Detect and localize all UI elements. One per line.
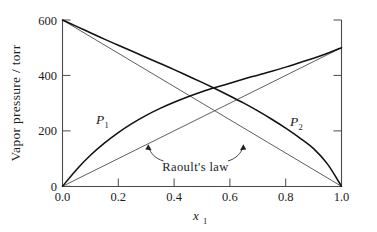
y-ticklabel-400: 400 <box>38 69 57 83</box>
chart-svg: 600 400 200 0 0.0 0.2 0.4 0.6 0.8 1.0 Va… <box>0 0 377 232</box>
y-ticklabel-200: 200 <box>38 124 57 138</box>
y-axis-ticks-right <box>334 20 342 131</box>
series-label-p1-base: P <box>95 112 104 127</box>
raoult-law-annotation: Raoult's law <box>145 144 246 173</box>
series-label-p1: P 1 <box>95 112 109 130</box>
y-ticklabel-600: 600 <box>38 14 57 28</box>
x-ticklabel-0.8: 0.8 <box>278 190 294 204</box>
series-label-p2: P 2 <box>289 114 303 132</box>
y-axis-label: Vapor pressure / torr <box>8 44 23 161</box>
x-axis-label: x 1 <box>192 208 207 226</box>
x-tick-labels: 0.0 0.2 0.4 0.6 0.8 1.0 <box>55 190 350 204</box>
series-label-p2-subscript: 2 <box>299 122 303 132</box>
series-label-p1-subscript: 1 <box>105 120 109 130</box>
x-axis-label-subscript: 1 <box>203 216 207 226</box>
x-axis-ticks <box>63 179 342 187</box>
series-label-p2-base: P <box>289 114 298 129</box>
raoult-law-label: Raoult's law <box>162 160 228 174</box>
y-tick-labels: 600 400 200 0 <box>38 14 57 194</box>
x-ticklabel-0.0: 0.0 <box>55 190 71 204</box>
x-ticklabel-0.2: 0.2 <box>110 190 126 204</box>
x-ticklabel-1.0: 1.0 <box>334 190 350 204</box>
x-ticklabel-0.6: 0.6 <box>222 190 238 204</box>
raoult-arrow-right-head <box>240 144 246 150</box>
vapor-pressure-chart: 600 400 200 0 0.0 0.2 0.4 0.6 0.8 1.0 Va… <box>0 0 377 232</box>
x-axis-label-base: x <box>192 208 199 223</box>
x-ticklabel-0.4: 0.4 <box>166 190 182 204</box>
y-axis-ticks-left <box>63 20 71 186</box>
